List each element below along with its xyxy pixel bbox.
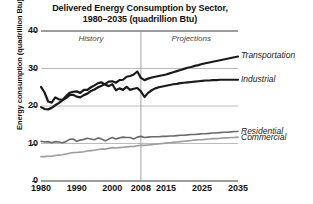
x-tick-label-1990: 1990 [67, 183, 87, 193]
series-label-industrial: Industrial [241, 74, 276, 84]
y-tick-mark-20 [32, 106, 37, 107]
x-tick-label-2000: 2000 [102, 183, 122, 193]
x-tick-label-2015: 2015 [156, 183, 176, 193]
y-tick-mark-30 [32, 69, 37, 70]
series-line-residential [41, 132, 238, 143]
x-tick-label-2035: 2035 [228, 183, 248, 193]
x-axis-ticks: 1980199020002008201520252035 [0, 183, 313, 199]
plot-area [41, 31, 238, 181]
x-tick-label-2008: 2008 [131, 183, 151, 193]
x-tick-label-2025: 2025 [192, 183, 212, 193]
y-axis-ticks: 010203040 [0, 0, 38, 204]
y-tick-mark-40 [32, 31, 37, 32]
chart-title: Delivered Energy Consumption by Sector, … [0, 3, 280, 25]
x-tick-label-1980: 1980 [31, 183, 51, 193]
y-tick-label-30: 30 [8, 63, 38, 73]
y-tick-mark-10 [32, 144, 37, 145]
chart-title-line1: Delivered Energy Consumption by Sector, [52, 3, 228, 13]
series-line-industrial [41, 80, 238, 103]
chart-title-line2: 1980–2035 (quadrillion Btu) [0, 14, 280, 25]
period-label-projections: Projections [171, 34, 211, 43]
y-tick-label-10: 10 [8, 138, 38, 148]
series-line-transportation [41, 57, 238, 110]
series-label-commercial: Commercial [241, 132, 286, 142]
y-tick-label-40: 40 [8, 25, 38, 35]
series-label-transportation: Transportation [241, 50, 295, 60]
chart-figure: Delivered Energy Consumption by Sector, … [0, 0, 313, 204]
period-label-history: History [78, 34, 103, 43]
y-tick-mark-0 [32, 181, 37, 182]
plot-svg [41, 31, 238, 181]
y-tick-label-20: 20 [8, 100, 38, 110]
